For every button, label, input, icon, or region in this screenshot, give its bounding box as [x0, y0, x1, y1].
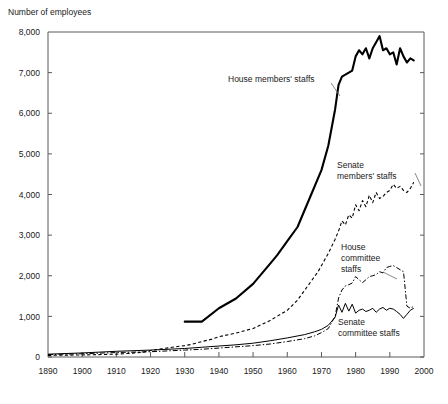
leader-senate-members	[415, 173, 421, 186]
y-tick-label: 2,000	[19, 271, 41, 281]
y-tick-label: 0	[35, 352, 40, 362]
leader-house-committee	[383, 272, 397, 279]
y-tick-label: 8,000	[19, 27, 41, 37]
x-axis-tick-labels: 1890190019101920193019401950196019701980…	[39, 366, 434, 376]
x-tick-label: 1950	[244, 366, 263, 376]
y-tick-label: 3,000	[19, 230, 41, 240]
y-tick-label: 4,000	[19, 190, 41, 200]
x-tick-label: 1980	[346, 366, 365, 376]
employees-line-chart: Number of employees 8,0007,0006,0005,000…	[0, 0, 448, 404]
series-label-house-committee-line3: staffs	[341, 264, 361, 274]
y-tick-label: 5,000	[19, 149, 41, 159]
chart-axis-title: Number of employees	[8, 7, 91, 17]
y-tick-label: 1,000	[19, 312, 41, 322]
x-tick-label: 1910	[107, 366, 126, 376]
series-label-senate-committee-line2: committee staffs	[338, 328, 400, 338]
x-tick-label: 1970	[312, 366, 331, 376]
x-tick-label: 1900	[73, 366, 92, 376]
y-tick-label: 6,000	[19, 108, 41, 118]
series-label-senate-members-line2: members' staffs	[337, 171, 397, 181]
x-tick-label: 1960	[278, 366, 297, 376]
y-axis-tick-labels: 8,0007,0006,0005,0004,0003,0002,0001,000…	[19, 27, 41, 362]
series-label-house-members: House members' staffs	[228, 74, 315, 84]
x-tick-label: 1920	[141, 366, 160, 376]
series-label-house-committee-line2: committee	[341, 253, 380, 263]
x-tick-label: 1930	[175, 366, 194, 376]
series-label-senate-committee-line1: Senate	[338, 317, 365, 327]
y-tick-label: 7,000	[19, 68, 41, 78]
x-tick-label: 2000	[415, 366, 434, 376]
chart-container: Number of employees 8,0007,0006,0005,000…	[0, 0, 448, 404]
x-tick-label: 1990	[380, 366, 399, 376]
series-label-house-committee-line1: House	[341, 242, 366, 252]
series-label-senate-members-line1: Senate	[337, 160, 364, 170]
x-tick-label: 1940	[209, 366, 228, 376]
axis-tick-marks	[48, 73, 424, 357]
x-tick-label: 1890	[39, 366, 58, 376]
